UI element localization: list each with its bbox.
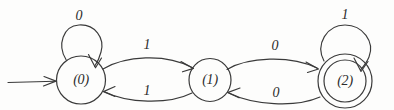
fsm-diagram: 0 1 1 0 0 1: [0, 0, 394, 110]
transition-q1-q2: 0: [227, 38, 319, 72]
transition-q0-q1-label: 1: [144, 37, 151, 52]
start-arrow: [8, 77, 56, 87]
transition-q2-q2: 1: [321, 7, 371, 71]
transition-q0-q1: 1: [103, 37, 194, 72]
state-q0[interactable]: (0): [57, 56, 106, 104]
transition-q0-q1-arc: [103, 58, 192, 69]
transition-q1-q2-arc: [227, 59, 317, 69]
transition-q1-q0: 1: [104, 83, 193, 101]
fsm-canvas: 0 1 1 0 0 1: [0, 0, 394, 110]
state-q2-label: (2): [337, 73, 353, 89]
transition-q1-q2-label: 0: [272, 38, 279, 53]
state-q1[interactable]: (1): [189, 59, 231, 102]
transition-q0-q0: 0: [62, 8, 102, 68]
state-q1-label: (1): [202, 72, 218, 88]
start-arrow-line: [8, 81, 55, 82]
state-q0-label: (0): [73, 72, 89, 88]
transition-q2-q1-label: 0: [273, 85, 280, 100]
transition-q1-q0-label: 1: [144, 83, 151, 98]
transition-q2-q2-arc: [321, 25, 371, 70]
state-q2[interactable]: (2): [318, 54, 372, 108]
transition-q0-q0-label: 0: [76, 8, 83, 23]
transition-q2-q2-label: 1: [342, 7, 349, 22]
transition-q2-q1: 0: [228, 85, 321, 104]
